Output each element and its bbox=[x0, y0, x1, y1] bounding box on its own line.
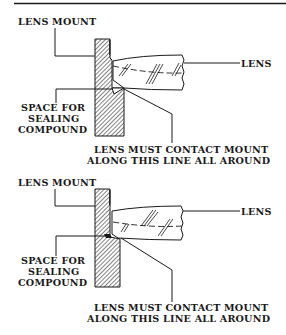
label-contact-line1: LENS MUST CONTACT MOUNT bbox=[94, 302, 269, 313]
label-space-line1: SPACE FOR bbox=[21, 102, 86, 113]
label-space-line3: COMPOUND bbox=[18, 124, 87, 135]
mount-threads bbox=[109, 190, 111, 205]
label-space-line2: SEALING bbox=[28, 266, 79, 277]
panel-bottom: LENS MOUNT LENS SPACE FOR SEALING COMPOU… bbox=[18, 177, 272, 324]
lens-body bbox=[113, 55, 184, 90]
label-lens-mount: LENS MOUNT bbox=[18, 177, 97, 188]
leader-lens-mount bbox=[55, 28, 95, 56]
panel-top: LENS MOUNT LENS SPACE FOR SEALING COMPOU… bbox=[18, 16, 272, 166]
lens-mount-diagram: LENS MOUNT LENS SPACE FOR SEALING COMPOU… bbox=[0, 0, 286, 335]
leader-lens-mount bbox=[55, 189, 95, 206]
leader-contact-line bbox=[121, 238, 172, 302]
leader-contact-line bbox=[124, 89, 172, 143]
label-space-line3: COMPOUND bbox=[18, 277, 87, 288]
label-lens: LENS bbox=[241, 206, 272, 217]
label-lens: LENS bbox=[241, 58, 272, 69]
label-contact-line2: ALONG THIS LINE ALL AROUND bbox=[86, 313, 270, 324]
label-contact-line2: ALONG THIS LINE ALL AROUND bbox=[86, 155, 270, 166]
label-space-line2: SEALING bbox=[28, 113, 79, 124]
mount-threads bbox=[109, 40, 111, 55]
label-lens-mount: LENS MOUNT bbox=[18, 16, 97, 27]
label-space-line1: SPACE FOR bbox=[21, 255, 86, 266]
label-contact-line1: LENS MUST CONTACT MOUNT bbox=[94, 144, 269, 155]
